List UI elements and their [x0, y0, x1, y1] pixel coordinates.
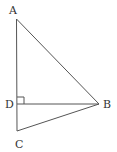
- triangle-diagram: A B C D: [0, 0, 117, 152]
- segment-bc: [17, 104, 99, 131]
- label-a: A: [8, 4, 18, 17]
- segment-ab: [17, 19, 100, 104]
- diagram-canvas: A B C D: [0, 0, 117, 152]
- segment-ac: [17, 19, 18, 131]
- label-b: B: [103, 98, 111, 111]
- right-angle-marker: [17, 97, 24, 104]
- label-d: D: [5, 98, 14, 111]
- label-c: C: [15, 138, 23, 151]
